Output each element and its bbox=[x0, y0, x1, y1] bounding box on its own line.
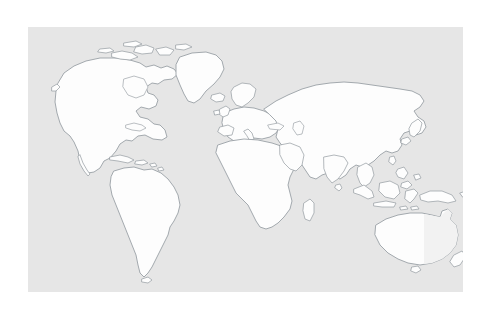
philippines-islet bbox=[414, 174, 421, 180]
lesser-sunda-islet-a bbox=[400, 206, 408, 210]
borneo-shape bbox=[379, 181, 400, 199]
tierra-del-fuego-shape bbox=[142, 277, 152, 283]
world-map-graphic[interactable] bbox=[28, 27, 463, 292]
philippines-shape-a bbox=[396, 167, 408, 179]
india-shape bbox=[324, 155, 348, 183]
australia-shading bbox=[424, 209, 458, 264]
arctic-island-c bbox=[156, 47, 174, 55]
sri-lanka-shape bbox=[335, 184, 342, 191]
tasmania-shape bbox=[411, 266, 421, 273]
arctic-island-f bbox=[176, 44, 192, 50]
iceland-shape bbox=[211, 93, 225, 102]
arctic-island-e bbox=[98, 48, 114, 53]
new-zealand-south-shape bbox=[450, 251, 463, 267]
java-shape bbox=[374, 201, 396, 207]
cuba-shape bbox=[110, 155, 134, 163]
indochina-shape bbox=[357, 163, 374, 187]
sumatra-shape bbox=[354, 185, 374, 199]
page-canvas bbox=[0, 0, 492, 312]
japan-south-shape bbox=[401, 137, 411, 145]
iberia-shape bbox=[218, 125, 234, 136]
pacific-islet-a bbox=[460, 191, 463, 197]
south-america-shape bbox=[110, 167, 180, 277]
sulawesi-shape bbox=[405, 189, 418, 203]
taiwan-shape bbox=[389, 156, 396, 165]
world-map-panel[interactable] bbox=[28, 27, 463, 292]
hispaniola-shape bbox=[135, 160, 148, 165]
caribbean-islet-b bbox=[158, 167, 164, 171]
lesser-sunda-islet-b bbox=[411, 206, 419, 210]
caribbean-islet-a bbox=[150, 163, 157, 167]
madagascar-shape bbox=[303, 199, 314, 221]
new-guinea-shape bbox=[420, 191, 456, 203]
scandinavia-shape bbox=[231, 83, 256, 107]
arctic-island-b bbox=[134, 45, 154, 54]
philippines-shape-b bbox=[401, 181, 412, 189]
ireland-shape bbox=[214, 110, 220, 115]
